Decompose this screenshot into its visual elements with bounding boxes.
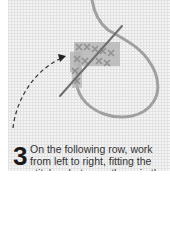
dashed-arrow [13,58,62,128]
step-text-line: stitches between those in the [30,167,165,171]
step-text: On the following row, work from left to … [30,143,165,171]
step-text-line: from left to right, fitting the [30,155,165,167]
arrow-head-icon [58,54,66,62]
step-text-line: On the following row, work [30,143,165,155]
step-number: 3 [13,145,27,167]
